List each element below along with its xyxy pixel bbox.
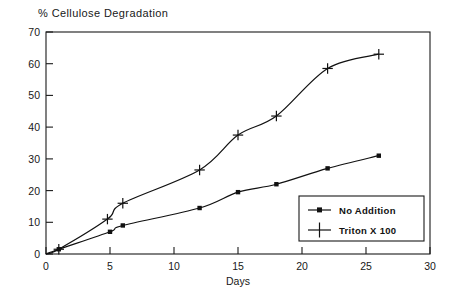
data-point-marker [197,206,201,210]
y-tick-label: 0 [34,248,40,260]
data-point-marker [57,247,61,251]
square-marker-icon [317,207,322,212]
data-point-marker [236,190,240,194]
y-tick-label: 60 [28,58,40,70]
x-tick-label: 15 [232,260,244,272]
y-axis-tick-labels: 0 10 20 30 40 50 60 70 [28,26,40,260]
y-tick-label: 20 [28,185,40,197]
x-tick-label: 25 [360,260,372,272]
data-point-marker [325,166,329,170]
data-point-marker [121,223,125,227]
y-tick-label: 50 [28,89,40,101]
data-point-marker [274,182,278,186]
chart-figure: % Cellulose Degradation 0 10 20 30 40 50… [0,0,457,300]
x-tick-label: 20 [296,260,308,272]
x-tick-label: 0 [43,260,49,272]
y-tick-label: 70 [28,26,40,38]
x-axis-title: Days [226,275,250,287]
x-axis-tick-labels: 0 5 10 15 20 25 30 [43,260,436,272]
chart-legend[interactable]: No Addition Triton X 100 [299,196,424,241]
data-point-marker [108,230,112,234]
legend-label-triton-x-100: Triton X 100 [339,225,396,236]
x-tick-label: 5 [107,260,113,272]
data-point-marker [377,153,381,157]
legend-label-no-addition: No Addition [339,205,396,216]
y-tick-label: 40 [28,121,40,133]
cellulose-degradation-line-chart: 0 10 20 30 40 50 60 70 0 5 10 15 20 25 [0,0,457,300]
x-tick-label: 10 [168,260,180,272]
y-tick-label: 10 [28,216,40,228]
y-tick-label: 30 [28,153,40,165]
x-tick-label: 30 [424,260,436,272]
